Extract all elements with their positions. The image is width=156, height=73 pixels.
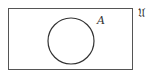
- set-a-circle: [48, 18, 94, 64]
- universe-label: 𝔘: [138, 7, 145, 20]
- set-a-label: A: [96, 14, 105, 27]
- venn-diagram: A 𝔘: [0, 0, 156, 73]
